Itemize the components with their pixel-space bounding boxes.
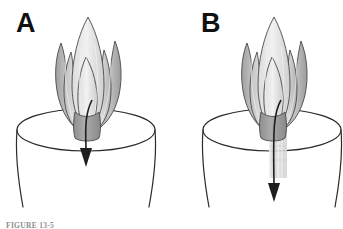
panel-a-valve-leaflet-cluster <box>56 17 121 141</box>
panel-b-group <box>202 17 341 207</box>
vessel-wall-left <box>16 130 23 207</box>
arrow-head <box>268 183 280 202</box>
vessel-wall-left <box>202 130 209 207</box>
panel-label-b: B <box>201 10 221 37</box>
figure-root: A B FIGURE 13-5 <box>0 0 343 229</box>
leaflet-stem-base <box>260 112 287 141</box>
arrow-head <box>80 148 92 167</box>
vessel-wall-right <box>335 130 342 207</box>
figure-illustration <box>0 0 343 229</box>
panel-a-group <box>16 17 155 207</box>
vessel-wall-right <box>149 130 156 207</box>
panel-label-a: A <box>16 10 36 37</box>
figure-caption: FIGURE 13-5 <box>6 221 54 229</box>
